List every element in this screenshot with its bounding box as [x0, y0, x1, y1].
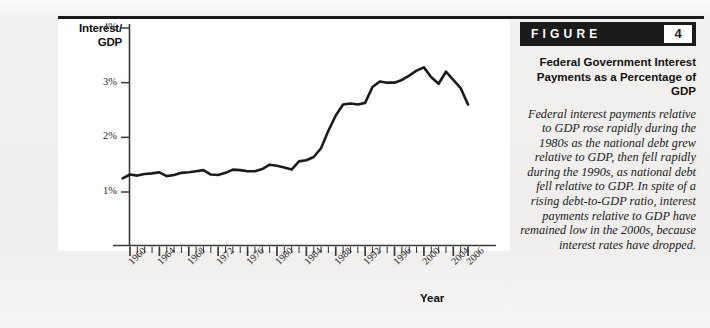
figure-container: Interest/ GDP 4%3%2%1% 19601964196819721…	[0, 0, 710, 328]
figure-badge: FIGURE 4	[520, 22, 696, 46]
y-axis-tick-label: 4%	[91, 21, 117, 32]
y-axis-tick-label: 3%	[91, 76, 117, 87]
x-axis-ticks	[130, 247, 468, 257]
y-axis-tick-label: 1%	[91, 185, 117, 196]
figure-badge-word: FIGURE	[531, 27, 602, 41]
data-series-line	[123, 67, 468, 178]
figure-caption-panel: FIGURE 4 Federal Government Interest Pay…	[520, 22, 696, 252]
x-axis-title: Year	[420, 292, 444, 304]
figure-badge-number: 4	[664, 25, 692, 43]
y-axis-ticks	[121, 28, 130, 192]
figure-caption-title: Federal Government Interest Payments as …	[520, 55, 696, 99]
figure-caption-body: Federal interest payments relative to GD…	[520, 107, 696, 253]
y-axis-tick-label: 2%	[91, 130, 117, 141]
